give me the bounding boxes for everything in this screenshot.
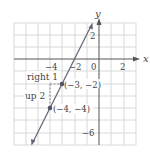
y-axis-arrow-icon bbox=[97, 18, 102, 25]
x-axis-label: x bbox=[143, 53, 149, 64]
tick-y-2: 2 bbox=[90, 31, 95, 41]
run-label: right 1 bbox=[27, 72, 58, 82]
x-axis bbox=[14, 57, 140, 62]
tick-x-neg4: −4 bbox=[45, 62, 58, 72]
tick-y-neg6: −6 bbox=[82, 128, 95, 138]
coordinate-plane: x y −4 −2 0 2 2 −6 right 1 up 2 (−3, −2)… bbox=[0, 0, 150, 157]
y-axis-label: y bbox=[94, 8, 101, 19]
rise-label: up 2 bbox=[25, 91, 45, 101]
tick-x-2: 2 bbox=[120, 62, 125, 72]
point-neg4-neg4 bbox=[48, 106, 53, 111]
point-a-label: (−3, −2) bbox=[64, 80, 101, 90]
point-b-label: (−4, −4) bbox=[53, 104, 90, 114]
tick-x-0: 0 bbox=[91, 62, 96, 72]
